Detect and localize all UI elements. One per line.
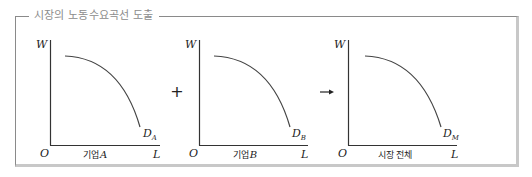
origin-label: O (189, 147, 198, 160)
graph-caption: 기업A (83, 149, 107, 160)
arrow-operator (320, 90, 334, 95)
plus-operator: + (170, 82, 183, 101)
x-axis-label: L (300, 148, 308, 161)
graph-market: W O L DM 시장 전체 (334, 38, 460, 161)
curve-label: DA (142, 127, 157, 142)
origin-label: O (40, 147, 49, 160)
x-axis-label: L (450, 148, 458, 161)
curve-label: DM (442, 127, 460, 142)
graph-firm-a: W O L DA 기업A (36, 38, 160, 161)
labor-demand-diagram: W O L DA 기업A + W O L DB 기업B W O L DM 시장 … (0, 0, 532, 177)
x-axis-label: L (152, 148, 160, 161)
y-axis-label: W (334, 38, 347, 51)
demand-curve-market (365, 56, 441, 127)
demand-curve-b (214, 56, 290, 127)
graph-caption: 기업B (233, 149, 257, 160)
origin-label: O (338, 147, 347, 160)
graph-caption: 시장 전체 (378, 150, 413, 160)
y-axis-label: W (36, 38, 49, 51)
curve-label: DB (291, 127, 306, 142)
y-axis-label: W (185, 38, 198, 51)
graph-firm-b: W O L DB 기업B (185, 38, 308, 161)
demand-curve-a (65, 56, 140, 127)
